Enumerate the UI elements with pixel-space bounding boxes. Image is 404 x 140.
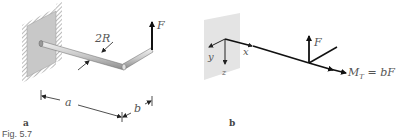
arm-line (309, 47, 337, 63)
diameter-label: 2R (94, 32, 110, 45)
torque-label: MT = bF (347, 66, 395, 81)
panel-a: F 2R a b a (22, 2, 165, 128)
axis-y-label: y (207, 51, 214, 62)
axis-z-label: z (221, 68, 227, 77)
panel-b-label: b (229, 118, 235, 128)
panel-b: y z x F MT = bF b (204, 13, 395, 128)
length-b-label: b (134, 102, 141, 115)
axis-x-label: x (243, 46, 249, 57)
force-label-a: F (156, 19, 165, 32)
length-a-label: a (65, 96, 72, 109)
torque-double-arrow (309, 63, 346, 73)
figure-caption: Fig. 5.7 (2, 129, 32, 139)
panel-a-label: a (23, 118, 29, 128)
force-label-b: F (313, 36, 322, 49)
figure-canvas: F 2R a b a Fig. 5.7 y z x (0, 0, 404, 140)
beam-line (253, 46, 309, 63)
dimension-a (41, 90, 122, 122)
